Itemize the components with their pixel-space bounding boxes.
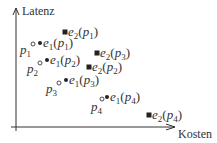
function-label: e1(p2) xyxy=(50,52,80,69)
filled-dot-marker-icon xyxy=(38,41,42,45)
diagram: Latenz Kosten p1p2p3p4 e1(p1)e1(p2)e1(p3… xyxy=(0,0,217,143)
e2-p4: e2(p4) xyxy=(147,107,182,124)
open-circle-marker-icon xyxy=(31,42,35,46)
point-p4: p4 xyxy=(90,97,104,116)
filled-dot-marker-icon xyxy=(64,78,68,82)
e2-p1: e2(p1) xyxy=(63,24,98,41)
point-p2: p2 xyxy=(26,61,42,78)
e1-p2: e1(p2) xyxy=(45,52,80,69)
open-circle-marker-icon xyxy=(57,81,61,85)
filled-dot-marker-icon xyxy=(45,58,49,62)
point-p3: p3 xyxy=(45,81,61,98)
y-axis-label: Latenz xyxy=(22,4,55,18)
filled-square-marker-icon xyxy=(147,113,152,118)
function-label: e2(p1) xyxy=(68,24,98,41)
e2-p2: e2(p2) xyxy=(87,59,122,76)
point-p1: p1 xyxy=(19,42,35,59)
filled-square-marker-icon xyxy=(95,51,100,56)
e1-p4: e1(p4) xyxy=(105,89,140,106)
function-label: e1(p3) xyxy=(69,72,99,89)
e1-p3: e1(p3) xyxy=(64,72,99,89)
function-label: e2(p2) xyxy=(92,59,122,76)
function-label: e1(p4) xyxy=(110,89,140,106)
point-label: p4 xyxy=(90,99,103,116)
point-label: p3 xyxy=(45,81,58,98)
x-axis-label: Kosten xyxy=(178,127,212,141)
open-circle-marker-icon xyxy=(100,97,104,101)
filled-square-marker-icon xyxy=(63,30,68,35)
filled-dot-marker-icon xyxy=(105,95,109,99)
filled-square-marker-icon xyxy=(87,65,92,70)
point-label: p1 xyxy=(19,42,31,59)
open-circle-marker-icon xyxy=(38,61,42,65)
function-label: e2(p4) xyxy=(152,107,182,124)
point-label: p2 xyxy=(26,61,38,78)
